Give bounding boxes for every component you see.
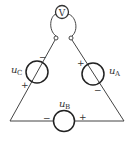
source-uC: u C − + xyxy=(11,52,48,90)
voltmeter-label: V xyxy=(58,8,66,18)
terminal-right xyxy=(69,36,73,40)
terminal-left xyxy=(54,36,58,40)
uB-plus: + xyxy=(79,112,87,122)
uC-minus: − xyxy=(39,52,47,62)
voltmeter: V xyxy=(56,6,69,19)
uA-plus: + xyxy=(77,58,85,68)
uA-minus: − xyxy=(94,85,102,95)
svg-text:B: B xyxy=(65,103,70,111)
circuit-diagram: V u C − + u A + − u B − + xyxy=(0,0,137,143)
uC-plus: + xyxy=(21,80,29,90)
svg-text:C: C xyxy=(17,69,22,77)
source-uA: u A + − xyxy=(77,58,121,95)
uB-minus: − xyxy=(43,113,51,123)
source-uB: u B − + xyxy=(43,98,87,132)
svg-text:A: A xyxy=(114,70,121,78)
